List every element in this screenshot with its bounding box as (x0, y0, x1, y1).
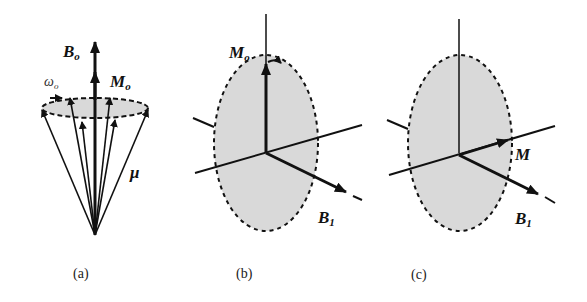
b0-label: Bo (62, 42, 80, 62)
m0-label-b: Mo (228, 43, 250, 63)
nmr-diagram: Bo Mo ωo μ (a) Mo B1 (b) M B1 (c) (0, 0, 587, 302)
panel-c: M B1 (c) (387, 19, 555, 283)
omega-label: ωo (44, 74, 59, 91)
panel-b: Mo B1 (b) (193, 14, 362, 282)
m-label-c: M (514, 145, 531, 164)
b1-label-c: B1 (514, 209, 532, 229)
m0-label: Mo (109, 72, 131, 92)
panel-a: Bo Mo ωo μ (a) (42, 42, 148, 282)
caption-a: (a) (73, 266, 89, 282)
caption-b: (b) (236, 266, 253, 282)
mu-label: μ (129, 163, 139, 182)
caption-c: (c) (411, 267, 427, 283)
b1-label-b: B1 (317, 208, 335, 228)
